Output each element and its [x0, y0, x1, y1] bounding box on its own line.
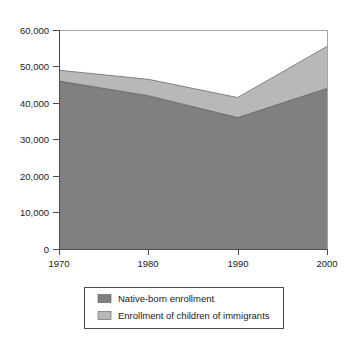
legend-swatch-native-born — [98, 295, 111, 303]
y-tick-label-30000: 30,000 — [20, 134, 49, 145]
x-tick-label-1970: 1970 — [48, 258, 69, 269]
area-chart-figure: 60,000 50,000 40,000 30,000 20,000 10,00… — [0, 0, 351, 344]
legend-label-native-born: Native-born enrollment — [118, 293, 214, 304]
y-tick-label-10000: 10,000 — [20, 207, 49, 218]
y-tick-label-20000: 20,000 — [20, 171, 49, 182]
chart-canvas: 60,000 50,000 40,000 30,000 20,000 10,00… — [0, 0, 351, 344]
x-tick-label-1980: 1980 — [137, 258, 158, 269]
y-tick-label-60000: 60,000 — [20, 25, 49, 36]
x-tick-label-1990: 1990 — [227, 258, 248, 269]
x-tick-label-2000: 2000 — [316, 258, 337, 269]
y-tick-label-50000: 50,000 — [20, 61, 49, 72]
y-tick-label-40000: 40,000 — [20, 98, 49, 109]
y-tick-label-0: 0 — [44, 244, 49, 255]
chart-legend: Native-born enrollment Enrollment of chi… — [84, 287, 283, 328]
legend-item-children-of-immigrants: Enrollment of children of immigrants — [98, 310, 270, 321]
legend-swatch-children-of-immigrants — [98, 312, 111, 320]
legend-label-children-of-immigrants: Enrollment of children of immigrants — [118, 310, 270, 321]
